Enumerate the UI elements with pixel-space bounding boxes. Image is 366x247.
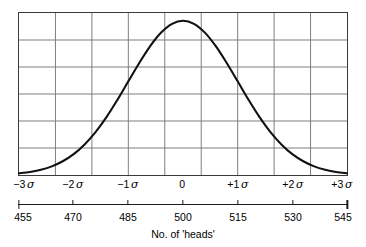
sigma-symbol: σ (240, 178, 249, 191)
sigma-tick-label: −1σ (117, 178, 139, 191)
value-axis-tick (18, 200, 19, 209)
sigma-symbol: σ (26, 178, 35, 191)
sigma-tick-label: +2σ (282, 178, 304, 191)
value-axis-tick-label: 530 (284, 211, 302, 224)
value-axis-tick (127, 200, 128, 205)
value-axis-tick-label: 500 (174, 211, 192, 224)
value-axis-tick (72, 200, 73, 205)
sigma-tick-label: +3σ (331, 178, 353, 191)
distribution-curve (19, 13, 347, 175)
sigma-tick-value: +2 (282, 178, 294, 190)
value-axis-tick-label: 470 (64, 211, 82, 224)
sigma-tick-value: −2 (62, 178, 74, 190)
value-axis-tick (182, 200, 183, 205)
value-axis-scale (18, 200, 348, 209)
sigma-tick-value: −3 (13, 178, 25, 190)
x-axis-title: No. of 'heads' (0, 228, 366, 241)
normal-distribution-chart: −3σ−2σ−1σ0+1σ+2σ+3σ 45547048550051553054… (0, 0, 366, 247)
value-axis-tick-label: 545 (334, 211, 352, 224)
sigma-tick-value: −1 (117, 178, 129, 190)
sigma-tick-label: 0 (179, 178, 187, 191)
sigma-symbol: σ (75, 178, 84, 191)
sigma-tick-value: +3 (331, 178, 343, 190)
sigma-tick-value: +1 (227, 178, 239, 190)
sigma-symbol (185, 178, 187, 191)
plot-area (18, 12, 348, 176)
value-axis-tick-label: 455 (14, 211, 32, 224)
value-axis-tick (237, 200, 238, 205)
sigma-symbol: σ (130, 178, 139, 191)
sigma-symbol: σ (295, 178, 304, 191)
sigma-symbol: σ (344, 178, 353, 191)
value-axis-tick (347, 200, 348, 209)
sigma-axis: −3σ−2σ−1σ0+1σ+2σ+3σ (18, 178, 348, 194)
value-axis-tick (292, 200, 293, 205)
value-axis-tick-label: 485 (119, 211, 137, 224)
sigma-tick-label: −3σ (13, 178, 35, 191)
sigma-tick-label: +1σ (227, 178, 249, 191)
value-axis-labels: 455470485500515530545 (18, 211, 348, 225)
value-axis-tick-label: 515 (229, 211, 247, 224)
sigma-tick-label: −2σ (62, 178, 84, 191)
